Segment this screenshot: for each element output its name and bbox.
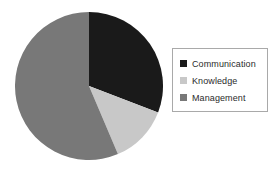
chart-figure: Communication Knowledge Management [0, 0, 278, 169]
square-swatch-icon [180, 94, 187, 101]
square-swatch-icon [180, 60, 187, 67]
chart-legend: Communication Knowledge Management [172, 48, 268, 112]
legend-item-label: Communication [192, 59, 256, 69]
legend-item-knowledge[interactable]: Knowledge [180, 72, 261, 89]
pie-chart-svg [15, 12, 163, 160]
legend-item-management[interactable]: Management [180, 89, 261, 106]
square-swatch-icon [180, 77, 187, 84]
legend-item-label: Knowledge [192, 76, 237, 86]
legend-item-communication[interactable]: Communication [180, 55, 261, 72]
pie-chart-plot-area [15, 12, 163, 160]
pie-slices [15, 12, 163, 160]
legend-item-label: Management [192, 93, 246, 103]
